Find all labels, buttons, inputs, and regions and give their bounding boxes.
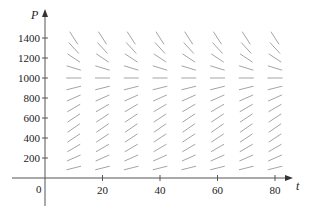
slope-segment [269, 104, 282, 112]
slope-segment [239, 166, 254, 170]
slope-segment [239, 155, 253, 161]
y-ticks: 200400600800100012001400 [18, 32, 48, 164]
slope-segment [182, 155, 196, 161]
slope-segment [154, 144, 167, 152]
slope-segment [182, 95, 196, 101]
y-tick-label: 1400 [18, 32, 41, 44]
slope-segment [153, 86, 168, 90]
slope-segment [211, 114, 223, 122]
slope-segment [96, 144, 109, 152]
slope-segment [211, 104, 224, 112]
slope-segment [240, 54, 252, 62]
slope-segment [239, 86, 254, 90]
slope-segment [153, 166, 168, 170]
slope-segment [269, 54, 281, 62]
slope-segment [211, 95, 225, 101]
slope-segment [240, 124, 252, 133]
x-tick-label: 20 [97, 184, 109, 196]
slope-segment [96, 114, 108, 122]
slope-segment [268, 95, 282, 101]
slope-segment [67, 104, 80, 112]
slope-segment [154, 124, 166, 133]
y-tick-label: 200 [24, 152, 41, 164]
slope-segment [211, 134, 223, 142]
x-axis-arrow-icon [285, 175, 293, 181]
slope-segment [124, 95, 138, 101]
slope-segment [96, 54, 108, 62]
slope-segment [68, 114, 80, 122]
slope-segment [268, 66, 282, 70]
slope-segment [183, 134, 195, 142]
slope-segment [70, 32, 78, 45]
slope-segment [240, 144, 253, 152]
y-axis-arrow-icon [42, 9, 48, 17]
slope-segment [211, 54, 223, 62]
slope-segment [153, 95, 167, 101]
slope-segment [269, 134, 281, 142]
slope-segment [125, 124, 137, 133]
slope-segment [68, 134, 80, 142]
origin-label: 0 [36, 183, 42, 195]
x-tick-label: 60 [212, 184, 224, 196]
slope-segment [268, 166, 283, 170]
slope-segment [153, 66, 167, 70]
slope-segment [96, 104, 109, 112]
slope-segment [242, 32, 250, 45]
x-tick-label: 40 [155, 184, 167, 196]
slope-segment [210, 66, 224, 70]
y-tick-label: 600 [24, 112, 41, 124]
slope-segment [183, 114, 195, 122]
y-tick-label: 1200 [18, 52, 41, 64]
slope-segment [95, 66, 109, 70]
slope-segment [127, 32, 135, 45]
slope-segment [210, 86, 225, 90]
slope-segment [98, 32, 106, 45]
slope-segment [211, 124, 223, 133]
slope-segment [268, 86, 283, 90]
slope-segment [68, 54, 80, 62]
slope-segment [96, 95, 110, 101]
y-tick-label: 800 [24, 92, 41, 104]
slope-segment [182, 104, 195, 112]
slope-segment [211, 144, 224, 152]
slope-segment [240, 134, 252, 142]
slope-segment [181, 86, 196, 90]
slope-segment [183, 54, 195, 62]
slope-segment [269, 144, 282, 152]
slope-segment [66, 86, 81, 90]
y-tick-label: 400 [24, 132, 41, 144]
slope-segment [153, 155, 167, 161]
slope-segment [239, 95, 253, 101]
x-tick-label: 80 [270, 184, 282, 196]
slope-segment [125, 104, 138, 112]
slope-segment [124, 66, 138, 70]
slope-segment [125, 54, 137, 62]
slope-segment [95, 166, 110, 170]
slope-segment [125, 134, 137, 142]
slope-segment [154, 104, 167, 112]
slope-segment [125, 114, 137, 122]
slope-field-segments [66, 32, 282, 170]
slope-segment [181, 166, 196, 170]
slope-segment [240, 114, 252, 122]
slope-segment [269, 124, 281, 133]
slope-segment [154, 54, 166, 62]
slope-segment [67, 95, 81, 101]
axes: t P 0 [12, 8, 300, 206]
slope-segment [239, 66, 253, 70]
slope-segment [182, 144, 195, 152]
slope-segment [124, 166, 139, 170]
slope-segment [95, 86, 110, 90]
slope-segment [154, 114, 166, 122]
slope-segment [124, 86, 139, 90]
x-axis-label: t [296, 179, 300, 193]
slope-segment [67, 155, 81, 161]
slope-segment [269, 114, 281, 122]
slope-segment [124, 155, 138, 161]
slope-segment [185, 32, 193, 45]
slope-segment [96, 124, 108, 133]
slope-segment [96, 155, 110, 161]
slope-segment [154, 134, 166, 142]
slope-segment [182, 66, 196, 70]
slope-segment [210, 166, 225, 170]
